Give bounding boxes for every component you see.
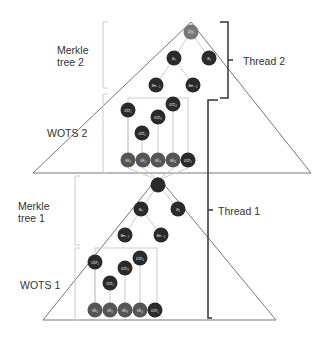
tree1-l1-node-text: a₁ bbox=[176, 207, 181, 212]
tree1-wots-node: otz₃ bbox=[118, 261, 133, 276]
tree2-wots-node-text: otz₃ bbox=[154, 115, 162, 120]
tree1-l1-node-text: a₀ bbox=[139, 207, 144, 212]
tree1-wots-node: otz₂ bbox=[103, 276, 118, 291]
tree1-wots-node: otz₄ bbox=[133, 251, 148, 266]
thread1-label: Thread 1 bbox=[218, 205, 260, 217]
tree2-root-node: PK bbox=[184, 25, 199, 40]
merkle2-bracket bbox=[103, 22, 108, 88]
tree1-sk-node: sk₁ bbox=[88, 303, 103, 318]
tree1-wots-node-text: otz₃ bbox=[121, 266, 129, 271]
tree1-root-node bbox=[151, 178, 166, 193]
tree1-sk-node-text: sk₃ bbox=[122, 308, 129, 313]
tree2-sk-node-text: sk₂ bbox=[140, 158, 147, 163]
tree2-wots-node-text: otz₂ bbox=[138, 131, 146, 136]
wots1-label: WOTS 1 bbox=[20, 279, 60, 291]
tree2-wots-node-text: otz₄ bbox=[169, 102, 177, 107]
tree2-sk-node-text: sk₄ bbox=[170, 158, 177, 163]
tree1-sk-node: sk₂ bbox=[103, 303, 118, 318]
tree1-sk-node-text: sk₄ bbox=[137, 308, 144, 313]
tree1-wots-node-text: otz₁ bbox=[91, 260, 99, 265]
tree1-sk-node-text: sk₁ bbox=[92, 308, 99, 313]
tree1-wots-node: otz₁ bbox=[88, 255, 103, 270]
merkle1-label-line2: tree 1 bbox=[18, 212, 50, 224]
thread2-label: Thread 2 bbox=[243, 55, 285, 67]
tree2-sk-node-text: otz₅ bbox=[184, 158, 192, 163]
tree2-l2-node: aₙ₋₁ bbox=[186, 78, 201, 93]
wots1-bracket bbox=[75, 248, 80, 320]
merkle1-label-line1: Merkle bbox=[18, 200, 50, 212]
tree2-l1-node-text: a₀ bbox=[172, 56, 177, 61]
tree1-l1-node: a₀ bbox=[134, 202, 149, 217]
merkle2-label-line2: tree 2 bbox=[57, 56, 89, 68]
merkle1-label: Merkle tree 1 bbox=[18, 200, 50, 224]
tree1-l2-node: aₙ₋₁ bbox=[154, 228, 169, 243]
tree2-l2-node-text: aₙ₋₁ bbox=[188, 83, 198, 88]
tree1-wots-node-text: otz₄ bbox=[136, 256, 144, 261]
tree2-wots-node: otz₄ bbox=[166, 97, 181, 112]
tree1-sk-node-text: sk₂ bbox=[107, 308, 114, 313]
tree1-sk-node: otz₅ bbox=[148, 303, 163, 318]
tree2-sk-node: sk₁ bbox=[121, 153, 136, 168]
tree1-sk-node: sk₃ bbox=[118, 303, 133, 318]
thread2-brace bbox=[220, 22, 233, 98]
tree1-sk-node: sk₄ bbox=[133, 303, 148, 318]
tree2-wots-node: otz₃ bbox=[151, 110, 166, 125]
tree1-l2-node-text: aₙ₋₁ bbox=[120, 233, 130, 238]
tree2-l1-node: a₁ bbox=[202, 51, 217, 66]
tree2-sk-node-text: sk₁ bbox=[125, 158, 132, 163]
tree2-l1-node-text: a₁ bbox=[207, 56, 212, 61]
merkle1-bracket bbox=[75, 176, 80, 245]
tree1-root-node-circle bbox=[151, 178, 166, 193]
merkle2-label: Merkle tree 2 bbox=[57, 44, 89, 68]
tree2-wots-node: otz₁ bbox=[121, 103, 136, 118]
merkle2-label-line1: Merkle bbox=[57, 44, 89, 56]
tree2-wots-node: otz₂ bbox=[135, 126, 150, 141]
tree2-l1-node: a₀ bbox=[167, 51, 182, 66]
wots2-label: WOTS 2 bbox=[47, 127, 87, 139]
tree2-sk-node: sk₃ bbox=[151, 153, 166, 168]
tree2-wots-node-text: otz₁ bbox=[124, 108, 132, 113]
thread1-brace bbox=[208, 100, 218, 318]
tree2-root-node-text: PK bbox=[188, 30, 194, 35]
tree2-sk-node-text: sk₃ bbox=[155, 158, 162, 163]
tree1-sk-node-text: otz₅ bbox=[151, 308, 159, 313]
tree1-l1-node: a₁ bbox=[171, 202, 186, 217]
tree1-l2-node-text: aₙ₋₁ bbox=[156, 233, 166, 238]
tree2-sk-node: sk₄ bbox=[166, 153, 181, 168]
tree1-wots-node-text: otz₂ bbox=[106, 281, 114, 286]
nodes-layer: PKa₀a₁aₙ₋₁aₙ₋₁otz₁otz₂otz₃otz₄sk₁sk₂sk₃s… bbox=[88, 25, 217, 318]
tree2-l2-node-text: aₙ₋₁ bbox=[151, 83, 161, 88]
tree2-l2-node: aₙ₋₁ bbox=[149, 78, 164, 93]
tree2-sk-node: otz₅ bbox=[181, 153, 196, 168]
tree2-sk-node: sk₂ bbox=[136, 153, 151, 168]
tree1-l2-node: aₙ₋₁ bbox=[118, 228, 133, 243]
